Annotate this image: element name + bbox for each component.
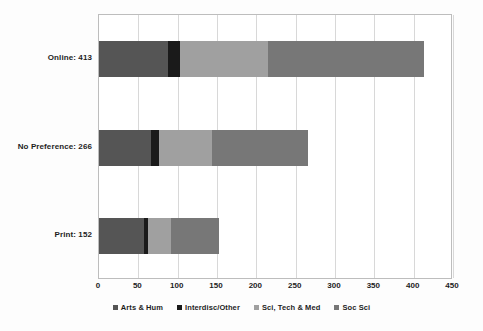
bar-segment xyxy=(99,41,168,77)
legend-swatch-icon xyxy=(254,305,259,310)
legend-swatch-icon xyxy=(113,305,118,310)
legend-item[interactable]: Soc Sci xyxy=(334,303,370,312)
x-tick-label-450: 450 xyxy=(445,281,458,290)
legend-item[interactable]: Sci, Tech & Med xyxy=(254,303,320,312)
x-tick-label-200: 200 xyxy=(249,281,262,290)
bar-segment xyxy=(99,218,144,254)
gridline-450 xyxy=(453,15,454,278)
bar-segment xyxy=(151,130,159,166)
bar-row xyxy=(99,218,219,254)
legend-swatch-icon xyxy=(177,305,182,310)
x-tick-label-400: 400 xyxy=(406,281,419,290)
category-label: No Preference: 266 xyxy=(18,129,92,165)
x-tick-label-150: 150 xyxy=(209,281,222,290)
stacked-bar-chart: Online: 413No Preference: 266Print: 152 … xyxy=(0,0,483,331)
legend-label: Soc Sci xyxy=(342,303,370,312)
legend-label: Sci, Tech & Med xyxy=(262,303,320,312)
bar-segment xyxy=(180,41,268,77)
x-axis: 050100150200250300350400450 xyxy=(98,281,452,295)
legend-label: Interdisc/Other xyxy=(185,303,240,312)
legend-swatch-icon xyxy=(334,305,339,310)
bar-segment xyxy=(99,130,151,166)
x-tick-label-0: 0 xyxy=(96,281,100,290)
category-label: Print: 152 xyxy=(55,217,92,253)
bar-segment xyxy=(171,218,218,254)
bar-segment xyxy=(148,218,172,254)
x-tick-label-350: 350 xyxy=(367,281,380,290)
plot-area xyxy=(98,14,452,279)
legend-item[interactable]: Interdisc/Other xyxy=(177,303,240,312)
bar-row xyxy=(99,130,308,166)
category-label: Online: 413 xyxy=(48,40,92,76)
bar-row xyxy=(99,41,424,77)
x-tick-label-100: 100 xyxy=(170,281,183,290)
legend-label: Arts & Hum xyxy=(121,303,163,312)
chart-legend: Arts & HumInterdisc/OtherSci, Tech & Med… xyxy=(0,303,483,312)
bar-segment xyxy=(168,41,180,77)
x-tick-label-250: 250 xyxy=(288,281,301,290)
x-tick-label-50: 50 xyxy=(133,281,142,290)
x-tick-label-300: 300 xyxy=(327,281,340,290)
bar-segment xyxy=(159,130,212,166)
bar-segment xyxy=(212,130,308,166)
legend-item[interactable]: Arts & Hum xyxy=(113,303,163,312)
bar-segment xyxy=(268,41,424,77)
